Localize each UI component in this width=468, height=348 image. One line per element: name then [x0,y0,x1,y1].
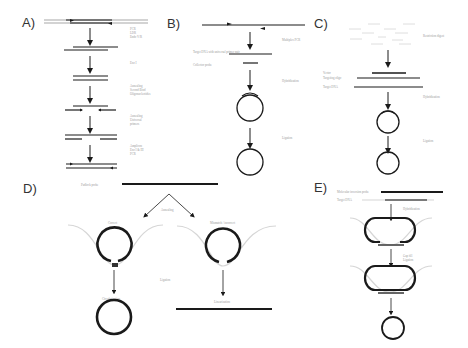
svg-text:Hybridization: Hybridization [423,95,440,99]
circular-probe [237,95,263,121]
svg-text:Ligation: Ligation [160,278,171,282]
left-arrow-icon [145,194,169,216]
circular-product [97,300,131,334]
svg-text:Correct: Correct [108,221,117,225]
panel-d-label: D) [23,181,37,196]
svg-text:Linearization: Linearization [214,300,230,304]
panel-a-label: A) [22,15,35,30]
svg-text:Annealing: Annealing [161,208,174,212]
panel-e-label: E) [314,180,327,195]
svg-text:primers: primers [130,122,140,126]
padlock-probe-correct [98,227,132,261]
panel-c: C) Restriction digest Vector Targeting o… [314,16,444,174]
right-arrow-icon [169,194,193,216]
circular-product [237,149,263,175]
svg-text:Mismatch / incorrect: Mismatch / incorrect [210,221,235,225]
circular-probe [377,111,399,133]
svg-text:Exo I: Exo I [130,61,137,65]
padlock-probe-mismatch [206,228,240,262]
svg-text:Oligonucleotides: Oligonucleotides [130,92,151,96]
svg-text:Endo V/R: Endo V/R [130,35,142,39]
circular-product [377,152,399,174]
mip-probe [365,218,415,242]
svg-text:Ligation: Ligation [403,258,414,262]
svg-text:Hybridization: Hybridization [282,79,299,83]
svg-text:Molecular inversion probe: Molecular inversion probe [337,190,369,194]
panel-a: A) PCR LDR Endo V/R Exo I Anne [22,15,151,170]
panel-d: D) Padlock probe Annealing Correct Circu… [23,181,276,334]
svg-text:Restriction digest: Restriction digest [423,34,444,38]
figure-canvas: A) PCR LDR Endo V/R Exo I Anne [0,0,468,348]
svg-text:Targeting oligo: Targeting oligo [323,76,342,80]
panel-c-label: C) [314,16,328,31]
panel-e: E) Molecular inversion probe Target DNA … [314,180,443,339]
svg-text:Multiplex PCR: Multiplex PCR [282,38,300,42]
mip-closed [365,266,415,290]
svg-text:Ligation: Ligation [423,139,434,143]
svg-text:Target DNA with universal prim: Target DNA with universal primer pair [193,50,240,54]
svg-text:Target DNA: Target DNA [337,198,353,202]
panel-b: B) Multiplex PCR Target DNA with univers… [167,16,305,175]
svg-text:Target DNA: Target DNA [323,85,339,89]
svg-text:Collector probe: Collector probe [193,63,212,67]
svg-text:Hybridization: Hybridization [403,207,420,211]
svg-text:PCR: PCR [130,152,136,156]
svg-text:Ligation: Ligation [282,136,293,140]
svg-text:Padlock probe: Padlock probe [81,183,99,187]
circular-product [382,317,404,339]
panel-b-label: B) [167,16,180,31]
svg-text:Vector: Vector [323,71,331,75]
